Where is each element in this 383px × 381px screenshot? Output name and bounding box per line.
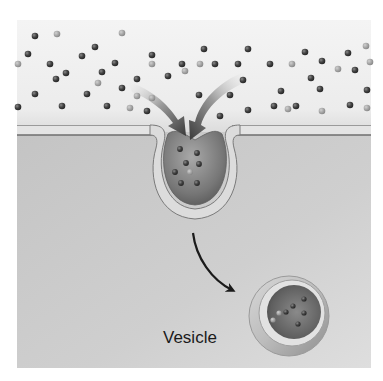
particle: [227, 92, 234, 99]
particle: [177, 146, 183, 152]
particle: [319, 108, 326, 115]
particle: [319, 58, 326, 65]
particle: [47, 61, 54, 68]
particle: [95, 80, 102, 87]
particle: [276, 310, 281, 315]
particle: [25, 51, 32, 58]
particle: [212, 61, 219, 68]
particle: [290, 303, 295, 308]
particle: [345, 50, 352, 57]
particle: [278, 88, 285, 95]
particle: [197, 61, 204, 68]
particle: [182, 68, 189, 75]
particle: [217, 113, 224, 120]
particle: [53, 76, 60, 83]
particle: [92, 44, 99, 51]
particle: [301, 296, 306, 301]
particle: [63, 70, 70, 77]
particle: [196, 161, 202, 167]
particle: [172, 169, 178, 175]
particle: [194, 150, 200, 156]
particle: [270, 317, 275, 322]
particle: [293, 103, 300, 110]
particle: [149, 61, 156, 68]
particle: [84, 91, 91, 98]
particle: [352, 67, 359, 74]
particle: [201, 46, 208, 53]
particle: [15, 61, 22, 68]
particle: [245, 107, 252, 114]
particle: [335, 66, 342, 73]
particle: [194, 180, 200, 186]
particle: [302, 49, 309, 56]
particle: [317, 86, 324, 93]
particle: [271, 103, 278, 110]
particle: [134, 93, 141, 100]
particle: [267, 61, 274, 68]
particle: [245, 46, 252, 53]
particle: [134, 76, 141, 83]
particle: [308, 75, 315, 82]
particle: [59, 103, 66, 110]
particle: [104, 103, 111, 110]
particle: [347, 102, 354, 109]
particle: [364, 105, 371, 112]
particle: [54, 31, 61, 38]
extracellular-fluid: [17, 20, 371, 132]
particle: [183, 160, 189, 166]
particle: [79, 53, 86, 60]
particle: [367, 59, 374, 66]
particle: [235, 61, 242, 68]
particle: [127, 105, 134, 112]
particle: [165, 73, 172, 80]
particle: [289, 61, 296, 68]
particle: [119, 30, 126, 37]
particle: [149, 95, 156, 102]
particle: [363, 43, 370, 50]
particle: [15, 104, 22, 111]
particle: [179, 61, 186, 68]
particle: [149, 52, 156, 59]
particle: [187, 169, 193, 175]
particle: [178, 180, 184, 186]
particle: [283, 309, 288, 314]
particle: [144, 108, 151, 115]
particle: [196, 92, 203, 99]
particle: [32, 33, 39, 40]
particle: [301, 310, 306, 315]
particle: [285, 106, 292, 113]
particle: [295, 321, 300, 326]
particle: [32, 91, 39, 98]
particle: [112, 60, 119, 67]
vesicle-label: Vesicle: [163, 328, 217, 347]
particle: [119, 85, 126, 92]
particle: [240, 77, 247, 84]
endocytosis-diagram: Vesicle: [0, 0, 383, 381]
particle: [99, 69, 106, 76]
particle: [364, 87, 371, 94]
diagram-canvas: Vesicle: [0, 0, 383, 381]
vesicle: [249, 276, 329, 356]
